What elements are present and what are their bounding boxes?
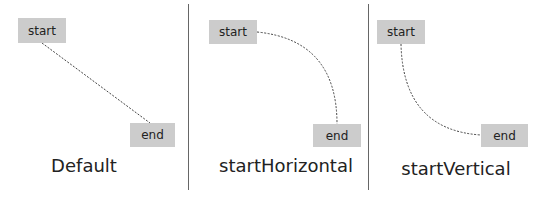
end-label: end [493, 129, 516, 143]
end-label: end [326, 129, 349, 143]
connector-default [42, 43, 150, 123]
caption-start-horizontal: startHorizontal [206, 155, 366, 176]
caption-start-vertical: startVertical [396, 158, 516, 179]
start-node-vertical[interactable]: start [377, 20, 425, 44]
connector-start-vertical [401, 44, 481, 135]
divider-2 [368, 4, 369, 190]
start-node-horizontal[interactable]: start [209, 20, 257, 44]
end-node-default[interactable]: end [130, 123, 175, 147]
diagram-stage: start end Default start end startHorizon… [0, 0, 548, 205]
end-node-horizontal[interactable]: end [313, 124, 361, 147]
start-label: start [219, 25, 247, 39]
start-label: start [387, 25, 415, 39]
start-label: start [28, 24, 56, 38]
start-node-default[interactable]: start [18, 18, 66, 43]
end-node-vertical[interactable]: end [481, 124, 528, 147]
end-label: end [141, 128, 164, 142]
connector-start-horizontal [257, 32, 337, 124]
caption-default: Default [34, 155, 134, 176]
divider-1 [188, 4, 189, 190]
